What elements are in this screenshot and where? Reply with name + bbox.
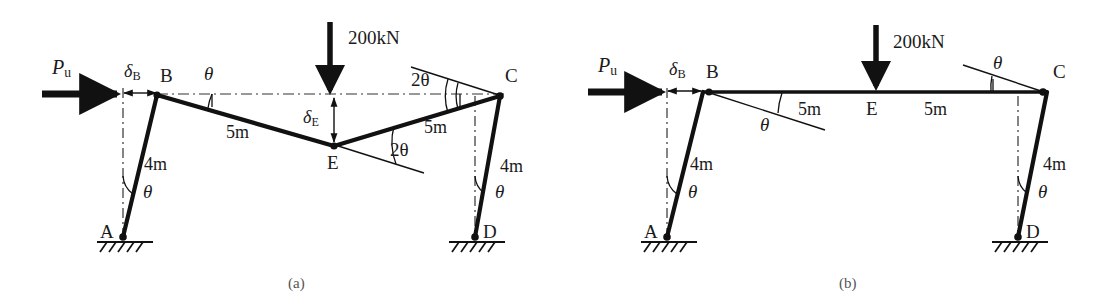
support-joint-a-a (119, 233, 127, 241)
member-column-dc-a (475, 96, 500, 237)
length-label-5m-be-a: 5m (226, 123, 249, 141)
length-label-5m-ec-a: 5m (424, 118, 447, 136)
load-label-pu-a: Pu (52, 57, 71, 80)
joint-e-a (330, 142, 337, 149)
angle-label-theta-a-b: θ (688, 182, 697, 201)
node-label-c-a: C (505, 66, 518, 85)
angle-label-theta-d-b: θ (1038, 182, 1047, 201)
node-label-c-b: C (1053, 62, 1066, 81)
angle-label-theta-b-a: θ (204, 64, 213, 83)
panel-a-geometry (42, 22, 505, 252)
support-joint-d-a (471, 233, 479, 241)
length-label-5m-ec-b: 5m (924, 100, 947, 118)
joint-b-b (705, 88, 712, 95)
angle-arc-b-b (778, 93, 782, 113)
joint-b-a (153, 91, 160, 98)
joint-c-a (496, 92, 504, 100)
node-label-a-b: A (644, 222, 658, 241)
load-label-200kn-b: 200kN (893, 32, 945, 51)
node-label-a-a: A (100, 222, 114, 241)
displacement-label-delta-b-a: δB (124, 62, 141, 82)
load-label-pu-b: Pu (598, 55, 617, 78)
angle-label-theta-d-a: θ (495, 182, 504, 201)
angle-arc-a-b (667, 176, 677, 194)
ground-support-a-b (641, 242, 697, 252)
angle-label-two-theta-c-a: 2θ (411, 70, 430, 89)
caption-panel-a: (a) (288, 276, 305, 291)
structural-collapse-mechanism-figure: Pu δB B θ 200kN 2θ C 5m δE 5m 2θ E 4m θ … (0, 0, 1103, 306)
joint-c-b (1039, 88, 1047, 96)
node-label-b-b: B (706, 62, 719, 81)
length-label-4m-ab-a: 4m (144, 155, 167, 173)
tangent-line-e-a (335, 145, 424, 173)
ground-support-a-a (97, 242, 153, 252)
node-label-e-a: E (327, 153, 339, 172)
load-label-200kn-a: 200kN (348, 28, 400, 47)
angle-label-theta-a-a: θ (143, 182, 152, 201)
tangent-line-c-b (963, 65, 1044, 92)
displacement-label-delta-b-b: δB (669, 60, 686, 80)
length-label-5m-be-b: 5m (798, 100, 821, 118)
angle-label-theta-b-b: θ (760, 115, 769, 134)
support-joint-d-b (1014, 233, 1022, 241)
angle-arc-c-a (445, 79, 448, 113)
length-label-4m-dc-a: 4m (500, 157, 523, 175)
angle-arc-c2-a (456, 83, 458, 109)
angle-arc-a-a (123, 176, 133, 194)
support-joint-a-b (663, 233, 671, 241)
node-label-d-b: D (1026, 222, 1040, 241)
length-label-4m-ab-b: 4m (690, 155, 713, 173)
node-label-d-a: D (483, 222, 497, 241)
angle-label-two-theta-e-a: 2θ (390, 140, 409, 159)
panel-b-geometry (588, 25, 1048, 252)
ground-support-d-b (992, 242, 1048, 252)
length-label-4m-dc-b: 4m (1043, 155, 1066, 173)
ground-support-d-a (449, 242, 505, 252)
displacement-label-delta-e-a: δE (303, 108, 319, 128)
node-label-e-b: E (866, 99, 878, 118)
node-label-b-a: B (160, 66, 173, 85)
angle-arc-c-b (991, 76, 992, 92)
caption-panel-b: (b) (839, 276, 857, 291)
angle-label-theta-c-b: θ (993, 53, 1002, 72)
